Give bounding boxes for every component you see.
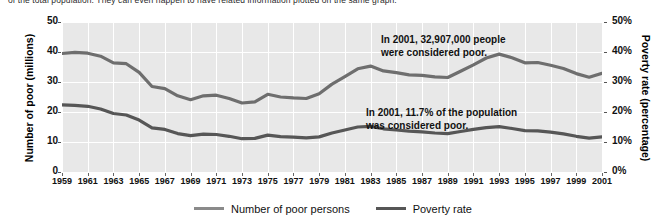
y-axis-left-tick-mark (58, 172, 61, 173)
y-axis-right-tick-mark (604, 52, 607, 53)
x-axis-tick-mark (448, 173, 449, 176)
y-axis-right-tick-label: 50% (612, 15, 654, 26)
y-axis-right-tick-mark (604, 22, 607, 23)
y-axis-right-tick-mark (604, 82, 607, 83)
x-axis-tick-mark (88, 173, 89, 176)
x-axis-tick-label: 2001 (587, 176, 617, 186)
x-axis-tick-mark (139, 173, 140, 176)
legend-line-swatch (376, 207, 406, 210)
x-axis-tick-mark (576, 173, 577, 176)
y-axis-right-tick-mark (604, 142, 607, 143)
poverty-chart-figure: of the total population. They can even h… (0, 0, 666, 221)
legend-item[interactable]: Number of poor persons (194, 203, 350, 215)
annotation-poor-count-line2: were considered poor. (381, 46, 506, 59)
x-axis-tick-mark (191, 173, 192, 176)
y-axis-left-tick-label: 30 (18, 75, 58, 86)
legend-item[interactable]: Poverty rate (376, 203, 472, 215)
x-axis-tick-mark (551, 173, 552, 176)
y-axis-right-tick-label: 40% (612, 45, 654, 56)
y-axis-right-tick-label: 20% (612, 105, 654, 116)
y-axis-left-tick-mark (58, 142, 61, 143)
y-axis-left-tick-mark (58, 112, 61, 113)
annotation-poor-count: In 2001, 32,907,000 people were consider… (381, 33, 506, 59)
legend-item-label: Poverty rate (413, 203, 472, 215)
x-axis-tick-mark (268, 173, 269, 176)
series-lines (62, 22, 602, 172)
annotation-poverty-rate-line1: In 2001, 11.7% of the population (366, 106, 517, 119)
x-axis-tick-mark (113, 173, 114, 176)
y-axis-left-tick-mark (58, 52, 61, 53)
y-axis-right-tick-label: 10% (612, 135, 654, 146)
y-axis-right-tick-label: 30% (612, 75, 654, 86)
x-axis-tick-mark (473, 173, 474, 176)
x-axis-tick-mark (62, 173, 63, 176)
annotation-poverty-rate-line2: was considered poor. (366, 119, 517, 132)
y-axis-right-tick-mark (604, 172, 607, 173)
annotation-poverty-rate: In 2001, 11.7% of the population was con… (366, 106, 517, 132)
y-axis-left-tick-label: 20 (18, 105, 58, 116)
x-axis-tick-mark (319, 173, 320, 176)
chart-legend: Number of poor personsPoverty rate (0, 196, 666, 221)
y-axis-right-tick-label: 0% (612, 165, 654, 176)
x-axis-tick-mark (602, 173, 603, 176)
line-poverty-rate (62, 105, 602, 139)
y-axis-left-tick-label: 0 (18, 165, 58, 176)
y-axis-right-tick-mark (604, 112, 607, 113)
x-axis-tick-mark (396, 173, 397, 176)
legend-item-label: Number of poor persons (231, 203, 350, 215)
caption-strip: of the total population. They can even h… (0, 0, 666, 9)
x-axis-tick-mark (165, 173, 166, 176)
line-number-of-poor-persons (62, 52, 602, 103)
legend-line-swatch (194, 207, 224, 210)
x-axis-tick-mark (242, 173, 243, 176)
x-axis-tick-mark (293, 173, 294, 176)
x-axis-tick-mark (216, 173, 217, 176)
x-axis-tick-mark (422, 173, 423, 176)
annotation-poor-count-line1: In 2001, 32,907,000 people (381, 33, 506, 46)
y-axis-left-tick-mark (58, 22, 61, 23)
y-axis-left-tick-label: 50 (18, 15, 58, 26)
x-axis-tick-mark (371, 173, 372, 176)
x-axis-tick-mark (525, 173, 526, 176)
caption-text: of the total population. They can even h… (8, 0, 397, 5)
y-axis-left-tick-mark (58, 82, 61, 83)
plot-area (62, 22, 602, 172)
y-axis-left-tick-label: 40 (18, 45, 58, 56)
x-axis-tick-mark (345, 173, 346, 176)
y-axis-left-tick-label: 10 (18, 135, 58, 146)
x-axis-tick-mark (499, 173, 500, 176)
